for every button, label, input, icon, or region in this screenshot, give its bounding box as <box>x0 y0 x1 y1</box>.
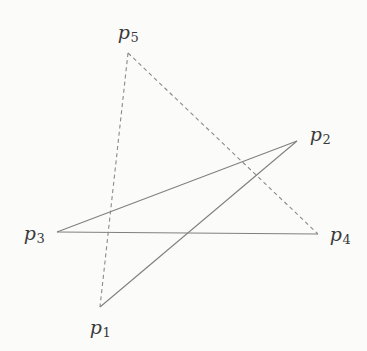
node-label-p3-subscript: 3 <box>36 231 44 246</box>
node-label-p1: p1 <box>90 318 110 337</box>
node-label-p2-base: p <box>310 123 322 145</box>
node-label-p4: p4 <box>330 225 350 244</box>
node-label-p2-subscript: 2 <box>322 132 330 147</box>
node-label-p4-subscript: 4 <box>342 232 350 247</box>
node-label-p5-base: p <box>118 21 130 43</box>
edge-p1-p2 <box>100 141 297 307</box>
node-label-p3-base: p <box>24 222 36 244</box>
edge-p5-p1 <box>100 53 128 307</box>
node-label-p1-base: p <box>90 316 102 338</box>
edge-p3-p2 <box>57 141 297 232</box>
node-label-p4-base: p <box>330 223 342 245</box>
diagram-svg <box>0 0 367 351</box>
diagram-canvas: p1 p2 p3 p4 p5 <box>0 0 367 351</box>
node-label-p1-subscript: 1 <box>102 325 110 340</box>
edge-layer <box>57 53 318 307</box>
node-label-p5: p5 <box>118 23 138 42</box>
node-label-p2: p2 <box>310 125 330 144</box>
node-label-p5-subscript: 5 <box>130 30 138 45</box>
node-label-p3: p3 <box>24 224 44 243</box>
